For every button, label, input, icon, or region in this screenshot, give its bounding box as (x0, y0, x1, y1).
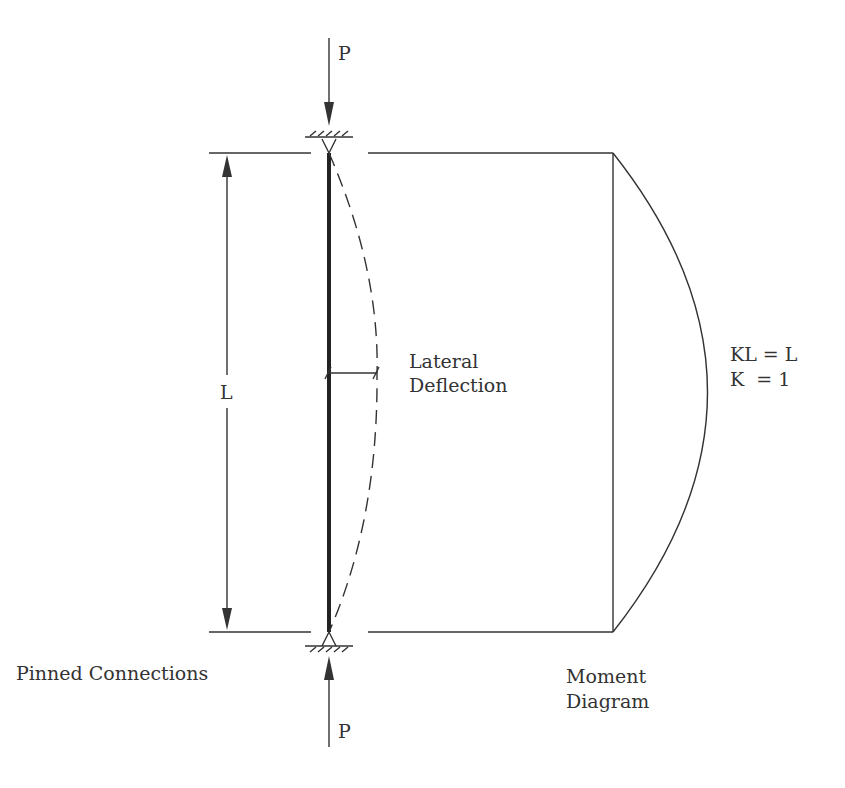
top-load-label: P (338, 42, 351, 64)
top-load-arrow (324, 38, 334, 126)
lateral-deflection-dimension (325, 367, 379, 379)
deflection-label-line2: Deflection (409, 374, 507, 396)
bottom-pin-support-icon (305, 632, 353, 652)
moment-label-line1: Moment (566, 665, 646, 687)
bottom-load-arrow (324, 656, 334, 747)
deflected-shape-curve (329, 153, 377, 632)
moment-label-line2: Diagram (566, 690, 649, 712)
deflection-label-line1: Lateral (409, 350, 478, 372)
top-pin-support-icon (305, 131, 353, 153)
effective-length-line2: K = 1 (730, 368, 790, 390)
effective-length-line1: KL = L (730, 343, 798, 365)
bottom-load-label: P (338, 720, 351, 742)
length-label: L (220, 381, 233, 403)
column-buckling-diagram: P P Lateral Deflection (0, 0, 845, 788)
supports-label: Pinned Connections (16, 662, 208, 684)
